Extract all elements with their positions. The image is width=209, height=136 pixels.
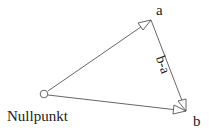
vector-origin-to-a: [48, 20, 151, 91]
label-origin: Nullpunkt: [7, 109, 68, 124]
vector-origin-to-b: [48, 95, 186, 114]
arrowhead-a-icon: [138, 20, 151, 30]
label-b: b: [193, 114, 201, 129]
origin-point-icon: [40, 90, 48, 98]
vector-diagram: a b Nullpunkt b-a: [0, 0, 209, 136]
label-a: a: [156, 3, 163, 18]
